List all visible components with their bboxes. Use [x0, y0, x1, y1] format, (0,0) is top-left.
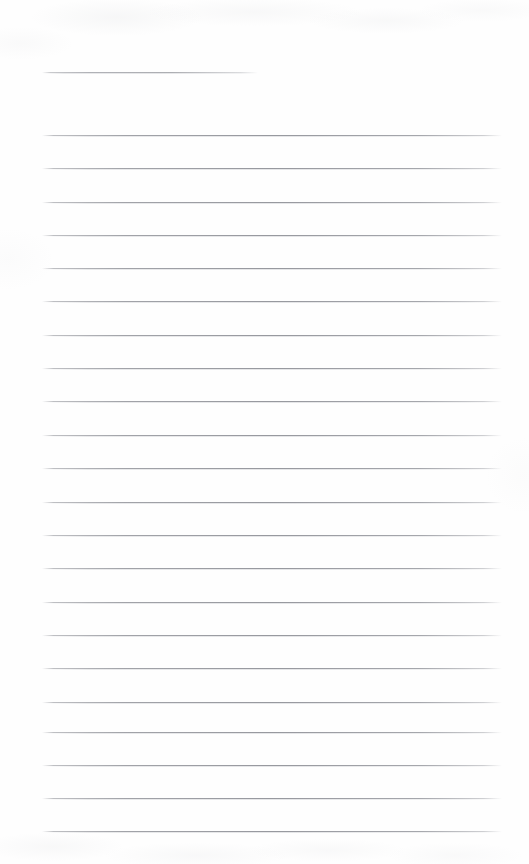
ruled-line	[42, 401, 502, 402]
ruled-line	[42, 235, 502, 236]
ruled-line	[42, 268, 502, 269]
ruled-line	[42, 702, 502, 703]
paper-grain-texture	[0, 0, 529, 864]
ruled-line	[42, 732, 502, 733]
ruled-line	[42, 72, 258, 73]
ruled-line	[42, 202, 502, 203]
ruled-line	[42, 301, 502, 302]
ruled-line	[42, 798, 502, 799]
ruled-line	[42, 135, 502, 136]
ruled-line	[42, 831, 502, 832]
ruled-line	[42, 568, 502, 569]
ruled-line	[42, 368, 502, 369]
ruled-line	[42, 635, 502, 636]
ruled-line	[42, 668, 502, 669]
ruled-line	[42, 468, 502, 469]
ruled-line	[42, 535, 502, 536]
ruled-line	[42, 502, 502, 503]
ruled-line	[42, 335, 502, 336]
ruled-line	[42, 765, 502, 766]
ruled-line	[42, 602, 502, 603]
ruled-line	[42, 435, 502, 436]
scanned-page	[0, 0, 529, 864]
ruled-line	[42, 168, 502, 169]
